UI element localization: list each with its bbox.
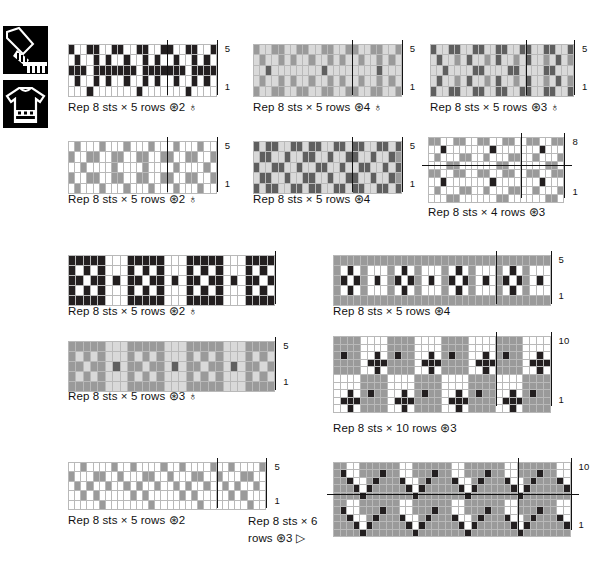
chart-cell xyxy=(567,65,573,75)
chart-cell xyxy=(245,286,252,296)
chart-cell xyxy=(223,362,230,372)
chart-cell xyxy=(260,286,267,296)
chart-cell xyxy=(340,374,347,382)
chart-cell xyxy=(503,352,510,360)
chart-cell xyxy=(164,266,171,276)
chart-cell xyxy=(469,337,476,345)
chart-cell xyxy=(530,367,537,375)
chart-cell xyxy=(489,276,496,286)
chart-cell xyxy=(361,374,368,382)
row-number-label: 5 xyxy=(225,141,230,151)
chart-cell xyxy=(449,344,456,352)
chart-cell xyxy=(347,286,354,296)
chart-cell xyxy=(516,266,523,276)
chart-cell xyxy=(509,344,516,352)
chart-cell xyxy=(238,352,245,362)
chart-cell xyxy=(401,352,408,360)
chart-cell xyxy=(381,390,388,398)
chart-cell xyxy=(415,256,422,266)
chart-cell xyxy=(482,374,489,382)
chart-cell xyxy=(482,359,489,367)
chart-cell xyxy=(179,342,186,352)
chart-row xyxy=(69,481,266,490)
chart-cell xyxy=(149,362,156,372)
chart-cell xyxy=(449,382,456,390)
chart-cell xyxy=(394,397,401,405)
chart-cell xyxy=(530,359,537,367)
chart-cell xyxy=(361,256,368,266)
chart-cell xyxy=(374,256,381,266)
chart-cell xyxy=(567,76,573,86)
chart-cell xyxy=(374,337,381,345)
chart-row xyxy=(334,352,551,360)
chart-cell xyxy=(245,352,252,362)
repeat-marker-vertical xyxy=(352,40,353,95)
chart-caption: Rep 8 sts × 5 rows ⊛4 xyxy=(253,192,370,206)
chart-cell xyxy=(489,374,496,382)
chart-cell xyxy=(238,372,245,382)
chart-cell xyxy=(489,405,496,413)
chart-cell xyxy=(509,286,516,296)
chart-cell xyxy=(334,382,341,390)
chart-cell xyxy=(208,362,215,372)
chart-cell xyxy=(381,352,388,360)
chart-cell xyxy=(105,352,112,362)
chart-cell xyxy=(530,256,537,266)
chart-cell xyxy=(267,352,274,362)
chart-cell xyxy=(476,296,483,306)
chart-cell xyxy=(421,397,428,405)
chart-cell xyxy=(340,337,347,345)
chart-cell xyxy=(394,344,401,352)
chart-cell xyxy=(428,337,435,345)
chart-cell xyxy=(455,352,462,360)
chart-cell xyxy=(347,359,354,367)
chart-cell xyxy=(91,362,98,372)
chart-cell xyxy=(476,344,483,352)
chart-cell xyxy=(230,372,237,382)
chart-cell xyxy=(523,359,530,367)
chart-cell xyxy=(421,359,428,367)
chart-cell xyxy=(354,374,361,382)
chart-cell xyxy=(421,374,428,382)
chart-cell xyxy=(361,266,368,276)
chart-cell xyxy=(267,342,274,352)
chart-4: 51 xyxy=(68,141,217,188)
chart-cell xyxy=(563,485,570,492)
chart-cell xyxy=(334,405,341,413)
chart-cell xyxy=(223,352,230,362)
chart-cell xyxy=(361,286,368,296)
chart-cell xyxy=(194,266,201,276)
chart-cell xyxy=(105,286,112,296)
chart-cell xyxy=(523,337,530,345)
row-number-label: 1 xyxy=(410,82,415,92)
chart-cell xyxy=(157,286,164,296)
chart-cell xyxy=(523,276,530,286)
chart-cell xyxy=(462,286,469,296)
chart-cell xyxy=(347,256,354,266)
chart-cell xyxy=(69,342,76,352)
chart-cell xyxy=(201,382,208,392)
chart-cell xyxy=(476,256,483,266)
chart-cell xyxy=(259,472,266,481)
chart-row xyxy=(69,256,275,266)
chart-cell xyxy=(361,382,368,390)
chart-cell xyxy=(230,342,237,352)
chart-cell xyxy=(462,352,469,360)
chart-cell xyxy=(563,507,570,514)
chart-cell xyxy=(530,276,537,286)
chart-cell xyxy=(503,405,510,413)
chart-cell xyxy=(172,372,179,382)
chart-cell xyxy=(388,405,395,413)
chart-cell xyxy=(216,362,223,372)
chart-cell xyxy=(408,256,415,266)
chart-cell xyxy=(428,344,435,352)
chart-cell xyxy=(482,367,489,375)
repeat-marker-vertical xyxy=(526,40,527,95)
chart-cell xyxy=(367,266,374,276)
chart-cell xyxy=(428,266,435,276)
chart-cell xyxy=(388,359,395,367)
chart-cell xyxy=(408,286,415,296)
chart-cell xyxy=(509,352,516,360)
chart-cell xyxy=(210,152,216,162)
row-number-label: 5 xyxy=(582,44,587,54)
